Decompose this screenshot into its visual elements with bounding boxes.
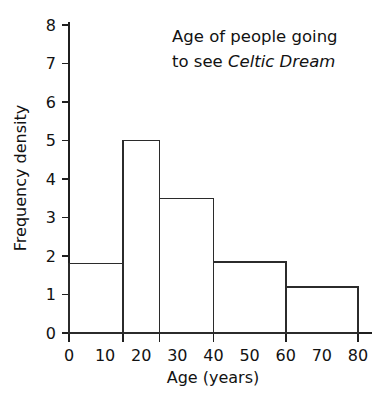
histogram-bar: [69, 264, 123, 333]
y-tick-label: 2: [46, 247, 56, 266]
x-tick-label: 0: [64, 346, 74, 365]
x-tick-label: 80: [348, 346, 368, 365]
y-tick-label: 6: [46, 93, 56, 112]
y-tick-label: 0: [46, 324, 56, 343]
chart-title-text: Age of people going: [172, 27, 338, 46]
y-tick-label: 1: [46, 285, 56, 304]
histogram-bar: [123, 141, 159, 334]
y-tick-label: 7: [46, 54, 56, 73]
x-tick-group: [69, 333, 358, 342]
y-tick-group: [62, 25, 69, 333]
x-tick-label: 30: [167, 346, 187, 365]
y-tick-label: 3: [46, 208, 56, 227]
chart-title-text: to see: [172, 52, 228, 71]
y-tick-label: 4: [46, 170, 56, 189]
chart-title-line: Age of people going: [172, 27, 338, 46]
y-tick-label: 5: [46, 131, 56, 150]
y-tick-label-group: 012345678: [46, 16, 56, 343]
chart-canvas: 012345678 01020304050607080 Frequency de…: [0, 0, 386, 397]
histogram-bar: [159, 198, 213, 333]
x-tick-label: 50: [239, 346, 259, 365]
x-tick-label: 10: [95, 346, 115, 365]
x-axis-title: Age (years): [167, 368, 260, 387]
histogram-bar: [286, 287, 358, 333]
x-tick-label: 40: [203, 346, 223, 365]
x-tick-label: 60: [276, 346, 296, 365]
histogram-bar: [214, 262, 286, 333]
x-tick-label-group: 01020304050607080: [64, 346, 368, 365]
histogram-figure: 012345678 01020304050607080 Frequency de…: [0, 0, 386, 397]
y-tick-label: 8: [46, 16, 56, 35]
chart-title: Age of people goingto see Celtic Dream: [172, 27, 338, 71]
x-tick-label: 20: [131, 346, 151, 365]
y-axis-title: Frequency density: [11, 105, 30, 251]
bar-group: [69, 141, 358, 334]
chart-title-line: to see Celtic Dream: [172, 52, 335, 71]
chart-title-emphasis: Celtic Dream: [228, 52, 335, 71]
x-tick-label: 70: [312, 346, 332, 365]
